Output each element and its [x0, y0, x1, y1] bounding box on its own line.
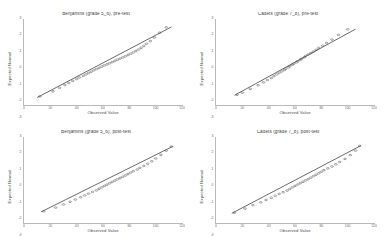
- data-point: [62, 203, 65, 205]
- x-axis-label: Observed Value: [216, 229, 374, 233]
- data-point: [330, 38, 333, 40]
- data-point: [325, 42, 328, 44]
- y-tick-labels: -3-2-10123: [206, 19, 215, 118]
- data-point: [312, 175, 315, 177]
- data-point: [307, 178, 310, 180]
- data-point: [165, 149, 168, 151]
- data-point: [82, 75, 85, 77]
- data-point: [349, 154, 352, 156]
- reference-line: [41, 146, 173, 212]
- x-tick-label: 120: [179, 107, 185, 110]
- data-point: [95, 68, 98, 70]
- x-tick-label: 0: [215, 225, 217, 228]
- y-tick-label: 0: [20, 67, 22, 70]
- y-tick-label: 1: [212, 50, 214, 53]
- data-point: [103, 185, 106, 187]
- data-point: [321, 44, 324, 46]
- data-point: [106, 183, 109, 185]
- data-point: [301, 181, 304, 183]
- qq-series: [24, 19, 182, 105]
- data-point: [150, 160, 153, 162]
- qq-panel-benjamins-pretest: Benjamins (grade 5_6), pre-test Expected…: [0, 0, 192, 118]
- x-tick-label: 100: [153, 225, 159, 228]
- data-point: [127, 173, 130, 175]
- data-point: [137, 48, 140, 50]
- data-point: [103, 64, 106, 66]
- data-point: [87, 192, 90, 194]
- y-tick-label: 1: [20, 168, 22, 171]
- data-point: [304, 179, 307, 181]
- x-tick-label: 100: [345, 107, 351, 110]
- plot-body: Expected Normal -3-2-10123 Observed Valu…: [6, 19, 182, 118]
- y-tick-label: -1: [210, 83, 213, 86]
- data-point: [241, 92, 244, 94]
- data-point: [288, 65, 291, 67]
- y-tick-labels: -3-2-10123: [206, 137, 215, 236]
- x-tick-label: 40: [267, 107, 271, 110]
- y-tick-label: -2: [210, 100, 213, 103]
- data-point: [108, 62, 111, 64]
- data-point: [275, 73, 278, 75]
- data-point: [142, 45, 145, 47]
- y-tick-label: -2: [210, 218, 213, 221]
- data-point: [91, 191, 94, 193]
- data-point: [278, 72, 281, 74]
- data-point: [154, 157, 157, 159]
- x-tick-labels: Observed Value 020406080100120: [24, 105, 182, 117]
- x-tick-label: 40: [75, 225, 79, 228]
- data-point: [344, 158, 347, 160]
- x-tick-label: 20: [48, 107, 52, 110]
- x-tick-label: 120: [179, 225, 185, 228]
- x-tick-label: 0: [23, 225, 25, 228]
- x-tick-label: 40: [267, 225, 271, 228]
- data-point: [116, 178, 119, 180]
- x-tick-label: 60: [101, 225, 105, 228]
- data-point: [334, 163, 337, 165]
- data-point: [315, 174, 318, 176]
- y-tick-labels: -3-2-10123: [14, 19, 23, 118]
- data-point: [323, 169, 326, 171]
- data-point: [244, 207, 247, 209]
- y-tick-label: 3: [20, 135, 22, 138]
- data-point: [317, 172, 320, 174]
- qq-panel-cadets-posttest: Cadets (grade 7_8), post-test Expected N…: [192, 118, 384, 236]
- plot-area: Observed Value 020406080100120: [215, 19, 374, 106]
- data-point: [121, 176, 124, 178]
- data-point: [338, 161, 341, 163]
- data-point: [84, 73, 87, 75]
- data-point: [92, 69, 95, 71]
- data-point: [129, 53, 132, 55]
- data-point: [71, 80, 74, 82]
- x-axis-label: Observed Value: [24, 111, 182, 115]
- x-tick-label: 0: [23, 107, 25, 110]
- data-point: [98, 188, 101, 190]
- y-tick-label: -2: [18, 218, 21, 221]
- y-tick-label: 1: [20, 50, 22, 53]
- data-point: [330, 165, 333, 167]
- x-tick-label: 60: [293, 107, 297, 110]
- x-axis-label: Observed Value: [216, 111, 374, 115]
- data-point: [127, 54, 130, 56]
- x-tick-labels: Observed Value 020406080100120: [216, 223, 374, 235]
- y-tick-label: 0: [212, 67, 214, 70]
- y-tick-label: -1: [210, 201, 213, 204]
- data-point: [52, 90, 55, 92]
- y-tick-label: 3: [20, 17, 22, 20]
- y-tick-label: 3: [212, 17, 214, 20]
- y-tick-label: 2: [212, 33, 214, 36]
- data-point: [282, 191, 285, 193]
- data-point: [113, 179, 116, 181]
- data-point: [145, 43, 148, 45]
- data-point: [270, 197, 273, 199]
- x-tick-label: 100: [345, 225, 351, 228]
- data-point: [294, 185, 297, 187]
- data-point: [299, 182, 302, 184]
- panel-title: Benjamins (grade 5_6), pre-test: [0, 12, 192, 17]
- data-point: [136, 168, 139, 170]
- data-point: [58, 87, 61, 89]
- data-point: [262, 81, 265, 83]
- x-tick-label: 80: [127, 225, 131, 228]
- data-point: [124, 174, 127, 176]
- y-tick-label: -3: [18, 234, 21, 236]
- data-point: [160, 154, 163, 156]
